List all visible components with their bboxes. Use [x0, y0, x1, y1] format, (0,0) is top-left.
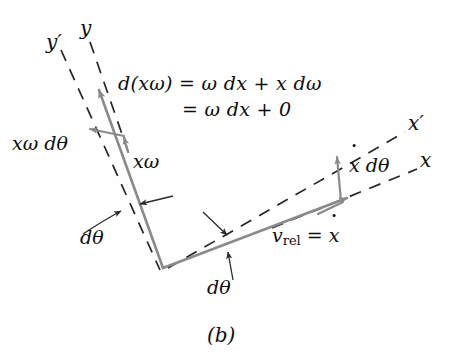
- figure-container: y′ y x′ x d(xω) = ω dx + x dω = ω dx + 0…: [0, 0, 450, 364]
- v-rel-value: x: [329, 224, 340, 246]
- y-axis-label: y: [80, 18, 91, 38]
- y-prime-axis-label: y′: [46, 32, 62, 52]
- x-omega-dtheta-vector: [90, 129, 124, 136]
- differential-equation-line2: = ω dx + 0: [182, 100, 291, 119]
- x-omega-label: xω: [133, 152, 159, 171]
- x-omega-vector: [99, 90, 163, 268]
- x-prime-axis-label: x′: [408, 113, 424, 133]
- xdot-accent-wrap: x: [349, 156, 360, 175]
- x-omega-shaft-tick: [124, 137, 128, 152]
- vector-diagram-svg: [0, 0, 450, 364]
- overdot-icon: [353, 144, 356, 147]
- v-rel-symbol: v: [272, 224, 283, 246]
- v-rel-subscript: rel: [283, 233, 301, 248]
- x-axis-label: x: [420, 150, 431, 170]
- xdot-dtheta-suffix: dθ: [360, 154, 390, 176]
- figure-caption: (b): [207, 325, 235, 345]
- v-rel-equals: =: [301, 224, 329, 246]
- xdot-dtheta-vector: [337, 157, 341, 201]
- xdot-dtheta-label: x dθ: [349, 156, 389, 175]
- differential-equation-line1: d(xω) = ω dx + x dω: [118, 74, 322, 93]
- x-omega-dtheta-label: xω dθ: [12, 134, 68, 153]
- overdot-icon: [333, 214, 336, 217]
- v-rel-xdot-wrap: x: [329, 226, 340, 245]
- dtheta-bottom-label: dθ: [207, 278, 231, 297]
- dtheta-left-label: dθ: [80, 228, 104, 247]
- pointer-to-x-omega-shaft: [140, 196, 173, 204]
- pointer-to-x-prime-gap: [203, 212, 227, 235]
- xdot-dtheta-base: x: [349, 154, 360, 176]
- v-rel-label: vrel = x: [272, 226, 339, 248]
